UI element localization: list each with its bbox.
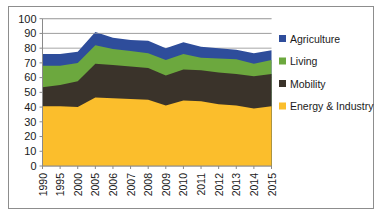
y-tick-label-10: 10 [24, 145, 36, 157]
x-tick-label-2006: 2006 [107, 173, 119, 197]
y-tick-label-90: 90 [24, 27, 36, 39]
y-tick-label-30: 30 [24, 116, 36, 128]
x-tick-label-2015: 2015 [266, 173, 278, 197]
x-tick-label-2014: 2014 [248, 173, 260, 197]
x-tick-label-2008: 2008 [142, 173, 154, 197]
y-tick-label-20: 20 [24, 130, 36, 142]
x-tick-label-2007: 2007 [125, 173, 137, 197]
x-tick-label-2005: 2005 [89, 173, 101, 197]
x-tick-label-2012: 2012 [213, 173, 225, 197]
y-tick-label-40: 40 [24, 101, 36, 113]
legend-label-living: Living [290, 55, 318, 67]
y-tick-label-0: 0 [30, 160, 36, 172]
chart-svg: 0102030405060708090100199019952000200520… [0, 0, 386, 220]
x-tick-label-1990: 1990 [37, 173, 49, 197]
stacked-area-chart: 0102030405060708090100199019952000200520… [0, 0, 386, 220]
x-tick-label-1995: 1995 [54, 173, 66, 197]
y-tick-label-70: 70 [24, 57, 36, 69]
legend-swatch-mobility [279, 80, 286, 87]
y-tick-label-80: 80 [24, 42, 36, 54]
legend-label-energy-industry: Energy & Industry [290, 100, 374, 112]
y-tick-label-60: 60 [24, 71, 36, 83]
x-tick-label-2009: 2009 [160, 173, 172, 197]
legend-label-agriculture: Agriculture [290, 33, 340, 45]
y-tick-label-50: 50 [24, 86, 36, 98]
y-tick-label-100: 100 [18, 13, 36, 25]
legend-label-mobility: Mobility [290, 78, 326, 90]
x-tick-label-2000: 2000 [72, 173, 84, 197]
legend-swatch-energy-industry [279, 103, 286, 110]
legend-swatch-living [279, 58, 286, 65]
area-series-energy-industry [43, 98, 272, 166]
x-tick-label-2011: 2011 [195, 173, 207, 196]
x-tick-label-2013: 2013 [230, 173, 242, 197]
x-tick-label-2010: 2010 [177, 173, 189, 197]
legend-swatch-agriculture [279, 35, 286, 42]
